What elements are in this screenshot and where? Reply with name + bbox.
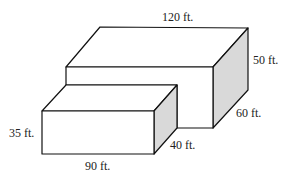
label-large-depth: 60 ft. xyxy=(236,106,261,120)
label-small-length: 90 ft. xyxy=(85,159,110,173)
small-box xyxy=(42,85,177,154)
small-box-front-face xyxy=(42,111,154,154)
label-large-height: 50 ft. xyxy=(253,53,278,67)
label-small-depth: 40 ft. xyxy=(170,138,195,152)
label-small-height: 35 ft. xyxy=(9,126,34,140)
label-large-length: 120 ft. xyxy=(162,10,193,24)
two-box-diagram: 120 ft. 50 ft. 60 ft. 35 ft. 40 ft. 90 f… xyxy=(0,0,289,182)
